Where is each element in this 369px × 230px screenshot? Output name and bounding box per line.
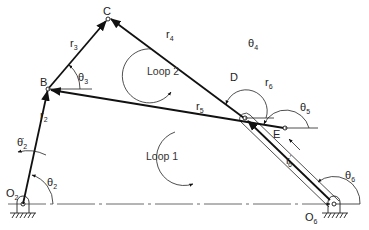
label-r6: r6 (265, 76, 273, 90)
theta2dot-arc (18, 151, 46, 155)
label-loop2: Loop 2 (147, 65, 179, 77)
label-theta4: θ4 (248, 37, 258, 51)
label-theta2dot: θ̇2 (17, 136, 27, 150)
label-r3: r3 (70, 37, 78, 51)
ground-pivot-o6 (322, 196, 348, 218)
label-theta2: θ2 (47, 176, 57, 190)
label-e: E (273, 128, 280, 140)
label-theta3: θ3 (78, 71, 88, 85)
theta4-arc (226, 90, 267, 118)
pin-c (106, 17, 110, 21)
label-d: D (230, 71, 238, 83)
label-loop1: Loop 1 (146, 150, 178, 162)
label-r6-prime: r′6 (286, 154, 292, 168)
label-b: B (40, 76, 47, 88)
label-theta6: θ6 (345, 169, 355, 183)
label-o2: O2 (6, 187, 19, 201)
label-theta5: θ5 (300, 101, 310, 115)
vector-r6-prime-arrow (289, 139, 300, 150)
label-o6: O6 (305, 211, 318, 225)
vector-r3 (48, 21, 106, 89)
label-r5: r5 (196, 100, 204, 114)
label-c: C (103, 5, 111, 17)
label-r4: r4 (166, 28, 174, 42)
linkage-diagram: O2 B C D E O6 r2 r3 r4 r5 r6 r′6 θ2 θ̇2 … (0, 0, 369, 230)
